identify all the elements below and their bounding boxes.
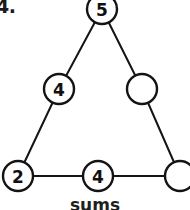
circle-right-middle-outline — [127, 74, 157, 104]
circle-bottom-right[interactable] — [165, 161, 190, 191]
circle-bottom-left-value: 2 — [12, 167, 24, 187]
circle-left-middle[interactable]: 4 — [44, 74, 74, 104]
circle-bottom-left[interactable]: 2 — [3, 161, 33, 191]
circle-top[interactable]: 5 — [87, 0, 117, 24]
circle-bottom-middle-value: 4 — [92, 167, 104, 187]
circle-left-middle-value: 4 — [53, 80, 65, 100]
circle-right-middle[interactable] — [127, 74, 157, 104]
node-layer: 5424 — [3, 0, 190, 191]
circle-bottom-middle[interactable]: 4 — [83, 161, 113, 191]
figure-caption: sums — [0, 197, 190, 210]
circle-bottom-right-outline — [165, 161, 190, 191]
triangle-number-puzzle-diagram: 5424 — [0, 0, 190, 210]
circle-top-value: 5 — [96, 0, 108, 20]
worksheet-figure-area: 4. 5424 sums — [0, 0, 190, 210]
